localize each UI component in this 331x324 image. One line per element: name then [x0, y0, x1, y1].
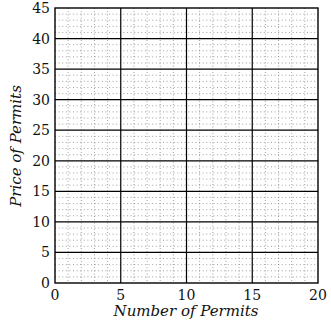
- y-tick-labels: 051015202530354045: [32, 0, 50, 291]
- y-tick-label: 40: [32, 31, 50, 47]
- y-tick-label: 0: [41, 275, 50, 291]
- y-tick-label: 25: [32, 122, 50, 138]
- x-tick-labels: 05101520: [51, 287, 327, 303]
- x-tick-label: 5: [116, 287, 125, 303]
- y-axis-label: Price of Permits: [7, 85, 25, 208]
- y-tick-label: 10: [32, 214, 50, 230]
- y-tick-label: 5: [41, 244, 50, 260]
- x-tick-label: 0: [51, 287, 60, 303]
- y-tick-label: 45: [32, 0, 50, 16]
- y-tick-label: 20: [32, 153, 50, 169]
- y-tick-label: 30: [32, 92, 50, 108]
- y-tick-label: 15: [32, 183, 50, 199]
- chart: 05101520 051015202530354045 Number of Pe…: [0, 0, 331, 324]
- y-tick-label: 35: [32, 61, 50, 77]
- x-axis-label: Number of Permits: [113, 302, 259, 320]
- x-tick-label: 20: [309, 287, 327, 303]
- x-tick-label: 10: [178, 287, 196, 303]
- x-tick-label: 15: [243, 287, 261, 303]
